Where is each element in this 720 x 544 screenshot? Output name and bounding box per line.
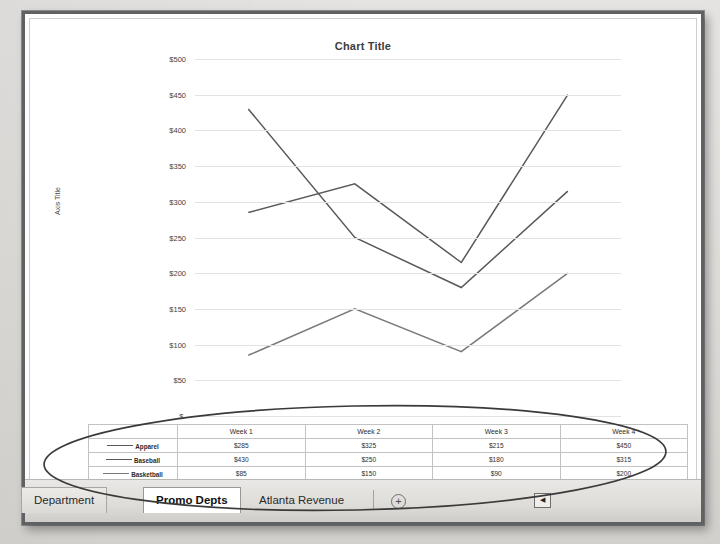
- legend-line-icon: [103, 473, 129, 474]
- table-column-header: Week 3: [433, 425, 561, 439]
- y-axis-tick-label: $100: [169, 340, 186, 349]
- table-cell: $325: [305, 439, 433, 453]
- gridline: [195, 309, 621, 310]
- table-row: Baseball$430$250$180$315: [89, 453, 688, 467]
- table-column-header: Week 2: [305, 425, 433, 439]
- table-cell: $215: [433, 439, 561, 453]
- legend-key-apparel: Apparel: [89, 439, 178, 453]
- y-axis-tick-label: $500: [169, 55, 186, 64]
- scroll-left-icon[interactable]: ◀: [534, 493, 551, 508]
- gridline: [195, 166, 621, 167]
- y-axis-tick-label: $350: [169, 162, 186, 171]
- table-cell: $315: [560, 453, 688, 467]
- y-axis-tick-label: $50: [173, 376, 186, 385]
- table-column-header: Week 4: [560, 425, 688, 439]
- table-cell: $430: [178, 453, 306, 467]
- y-axis-tick-label: $300: [169, 197, 186, 206]
- chart-object[interactable]: Chart Title Axis Title $500$450$400$350$…: [30, 19, 696, 423]
- new-sheet-icon[interactable]: +: [391, 494, 406, 509]
- sheet-tab-atlanta-revenue[interactable]: Atlanta Revenue: [247, 487, 357, 513]
- gridline: [195, 202, 621, 203]
- table-row: Apparel$285$325$215$450: [89, 439, 688, 453]
- table-cell: $250: [305, 453, 433, 467]
- y-axis-tick-label: $250: [169, 233, 186, 242]
- table-cell: $450: [560, 439, 688, 453]
- table-column-header: Week 1: [178, 425, 306, 439]
- gridline: [195, 238, 621, 239]
- chart-data-table[interactable]: Week 1Week 2Week 3Week 4 Apparel$285$325…: [88, 424, 688, 481]
- gridline: [195, 380, 621, 381]
- y-axis-tick-label: $400: [169, 126, 186, 135]
- y-axis-tick-label: $200: [169, 269, 186, 278]
- legend-key-baseball: Baseball: [89, 453, 178, 467]
- chart-title[interactable]: Chart Title: [30, 40, 696, 52]
- y-axis-tick-label: $150: [169, 304, 186, 313]
- gridline: [195, 416, 621, 417]
- sheet-tab-bar[interactable]: Department Promo Depts Atlanta Revenue +…: [25, 479, 701, 522]
- gridline: [195, 95, 621, 96]
- legend-line-icon: [106, 459, 132, 460]
- y-axis-tick-label: $-: [179, 412, 186, 421]
- table-header-row: Week 1Week 2Week 3Week 4: [89, 425, 688, 439]
- y-axis-title[interactable]: Axis Title: [54, 187, 61, 215]
- table-cell: $285: [178, 439, 306, 453]
- scanned-page-background: Chart Title Axis Title $500$450$400$350$…: [0, 0, 720, 544]
- worksheet-surface[interactable]: Chart Title Axis Title $500$450$400$350$…: [29, 18, 697, 518]
- sheet-tab-promo-depts[interactable]: Promo Depts: [143, 487, 241, 513]
- table-corner-cell: [89, 425, 178, 439]
- y-axis-tick-label: $450: [169, 90, 186, 99]
- gridline: [195, 273, 621, 274]
- legend-line-icon: [107, 445, 133, 446]
- gridline: [195, 59, 621, 60]
- legend-label: Apparel: [135, 442, 158, 449]
- table-cell: $180: [433, 453, 561, 467]
- tab-separator: [373, 490, 374, 509]
- plot-area[interactable]: $500$450$400$350$300$250$200$150$100$50$…: [195, 59, 621, 416]
- legend-label: Baseball: [134, 456, 160, 463]
- series-line-basketball: [248, 273, 568, 355]
- series-line-baseball: [248, 109, 568, 288]
- gridline: [195, 130, 621, 131]
- screen-frame: Chart Title Axis Title $500$450$400$350$…: [22, 11, 704, 525]
- gridline: [195, 345, 621, 346]
- legend-label: Basketball: [131, 470, 163, 477]
- table-body: Apparel$285$325$215$450Baseball$430$250$…: [89, 439, 688, 481]
- sheet-tab-department[interactable]: Department: [21, 487, 107, 513]
